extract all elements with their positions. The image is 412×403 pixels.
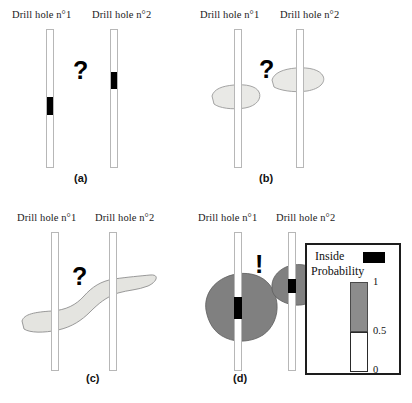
panel-d-interval-hole-2 bbox=[288, 279, 296, 293]
legend-box: Inside Probability 1 0.5 0 bbox=[305, 243, 401, 375]
panel-a-interval-hole-1 bbox=[47, 97, 53, 115]
panel-b-drill-hole-2 bbox=[296, 29, 304, 168]
legend-tick-0-5: 0.5 bbox=[373, 325, 386, 336]
panel-b-drill-hole-1 bbox=[234, 29, 242, 168]
legend-colorbar-high bbox=[350, 282, 368, 332]
legend-tick-1: 1 bbox=[373, 276, 378, 287]
panel-c-drill-hole-2 bbox=[109, 232, 117, 371]
panel-c-drill-hole-1 bbox=[51, 232, 59, 371]
legend-inside-swatch bbox=[363, 252, 385, 263]
legend-inside-label: Inside bbox=[315, 249, 344, 264]
panel-d-drill-hole-2 bbox=[288, 232, 296, 371]
panel-a-interval-hole-2 bbox=[111, 72, 117, 89]
legend-tick-0: 0 bbox=[373, 364, 378, 375]
panel-a-drill-hole-2 bbox=[110, 29, 118, 168]
panel-d-interval-hole-1 bbox=[234, 297, 242, 319]
legend-probability-label: Probability bbox=[311, 264, 364, 279]
legend-colorbar-low bbox=[350, 332, 368, 372]
figure-drill-hole-correlation: Drill hole n°1 Drill hole n°2 ? (a) Dril… bbox=[0, 0, 412, 403]
